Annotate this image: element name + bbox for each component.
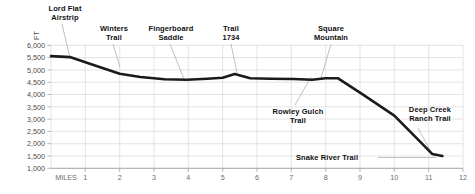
elevation-profile-chart: 6,000 5,500 5,000 4,500 4,000 3,500 3,00… <box>0 0 475 194</box>
callout-square-line2: Mountain <box>302 33 360 42</box>
x-tick-9: 9 <box>358 173 362 182</box>
y-tick-2500: 2,500 <box>27 127 45 136</box>
y-tick-4500: 4,500 <box>27 78 45 87</box>
y-tick-5500: 5,500 <box>27 53 45 62</box>
callout-rowley-gulch-trail: Rowley Gulch Trail <box>262 107 334 125</box>
callout-leader-lines <box>62 24 436 158</box>
callout-square-mountain: Square Mountain <box>302 24 360 42</box>
y-tick-1500: 1,500 <box>27 152 45 161</box>
x-tick-4: 4 <box>186 173 190 182</box>
callout-deep-creek-line1: Deep Creek <box>398 105 462 114</box>
x-axis-tick-labels: 1 2 3 4 5 6 7 8 9 10 11 12 <box>83 173 467 182</box>
leader-rowley <box>295 77 311 105</box>
callout-lord-flat-line2: Airstrip <box>36 13 94 22</box>
callout-fingerboard-line2: Saddle <box>140 33 202 42</box>
callout-winters-line2: Trail <box>88 33 140 42</box>
y-tick-3000: 3,000 <box>27 115 45 124</box>
y-tick-5000: 5,000 <box>27 66 45 75</box>
y-tick-3500: 3,500 <box>27 103 45 112</box>
callout-fingerboard-line1: Fingerboard <box>140 24 202 33</box>
y-tick-2000: 2,000 <box>27 139 45 148</box>
callout-trail1734-line1: Trail <box>210 24 252 33</box>
leader-trail1734 <box>231 44 237 73</box>
x-tick-12: 12 <box>459 173 467 182</box>
callout-fingerboard-saddle: Fingerboard Saddle <box>140 24 202 42</box>
x-tick-6: 6 <box>255 173 259 182</box>
callout-rowley-line2: Trail <box>262 116 334 125</box>
callout-rowley-line1: Rowley Gulch <box>262 107 334 116</box>
x-tick-3: 3 <box>152 173 156 182</box>
y-tick-4000: 4,000 <box>27 90 45 99</box>
y-axis-unit-label: FT <box>32 31 41 40</box>
y-tick-1000: 1,000 <box>27 164 45 173</box>
callout-winters-trail: Winters Trail <box>88 24 140 42</box>
callout-lord-flat-airstrip: Lord Flat Airstrip <box>36 4 94 22</box>
callout-lord-flat-line1: Lord Flat <box>36 4 94 13</box>
leader-lord-flat <box>62 24 70 58</box>
y-axis-ticks <box>48 45 52 168</box>
callout-deep-creek-line2: Ranch Trail <box>398 114 462 123</box>
x-tick-7: 7 <box>289 173 293 182</box>
x-tick-2: 2 <box>118 173 122 182</box>
leader-winters <box>113 44 120 67</box>
callout-trail-1734: Trail 1734 <box>210 24 252 42</box>
callout-snake-river-line1: Snake River Trail <box>296 153 376 162</box>
elevation-profile-line <box>51 56 442 156</box>
x-tick-5: 5 <box>221 173 225 182</box>
leader-fingerboard <box>170 44 184 79</box>
x-axis-origin-label: MILES <box>55 173 77 182</box>
callout-square-line1: Square <box>302 24 360 33</box>
x-tick-10: 10 <box>390 173 398 182</box>
callout-winters-line1: Winters <box>88 24 140 33</box>
x-tick-8: 8 <box>324 173 328 182</box>
x-tick-11: 11 <box>425 173 432 182</box>
x-axis-ticks <box>85 168 463 172</box>
callout-deep-creek-ranch-trail: Deep Creek Ranch Trail <box>398 105 462 123</box>
y-tick-6000: 6,000 <box>27 41 45 50</box>
callout-snake-river-trail: Snake River Trail <box>296 153 376 162</box>
y-axis-tick-labels: 6,000 5,500 5,000 4,500 4,000 3,500 3,00… <box>27 41 45 173</box>
x-tick-1: 1 <box>83 173 87 182</box>
callout-trail1734-line2: 1734 <box>210 33 252 42</box>
